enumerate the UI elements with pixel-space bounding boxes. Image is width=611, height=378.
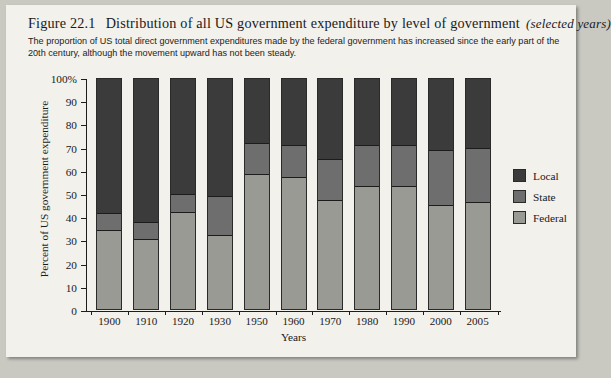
y-tick-mark (81, 241, 86, 242)
bar-segment-federal[interactable] (465, 203, 491, 310)
figure-number: Figure 22.1 (28, 15, 96, 31)
figure-title: Figure 22.1Distribution of all US govern… (28, 15, 562, 32)
bar-segment-state[interactable] (170, 194, 196, 213)
bar-1950[interactable] (244, 78, 270, 310)
bar-1970[interactable] (317, 78, 343, 310)
y-tick-label: 50 (66, 189, 77, 201)
bar-1920[interactable] (170, 78, 196, 310)
x-tick-mark (349, 311, 350, 315)
bar-segment-federal[interactable] (207, 236, 233, 310)
bar-1960[interactable] (281, 78, 307, 310)
bar-segment-local[interactable] (96, 78, 122, 213)
bar-segment-state[interactable] (281, 145, 307, 177)
bar-segment-state[interactable] (244, 143, 270, 175)
y-tick-label: 40 (66, 212, 77, 224)
y-tick-mark (81, 79, 86, 80)
y-tick-label: 60 (66, 166, 77, 178)
bar-segment-local[interactable] (170, 78, 196, 194)
x-tick-label-2005: 2005 (466, 315, 488, 327)
x-tick-mark (460, 311, 461, 315)
figure-card: Figure 22.1Distribution of all US govern… (6, 5, 576, 357)
bar-2000[interactable] (428, 78, 454, 310)
y-tick-mark (81, 218, 86, 219)
figure-title-qualifier: (selected years) (526, 16, 611, 31)
bar-segment-local[interactable] (465, 78, 491, 148)
y-tick-mark (81, 125, 86, 126)
bar-segment-federal[interactable] (170, 213, 196, 310)
bar-segment-state[interactable] (133, 222, 159, 241)
bar-segment-federal[interactable] (244, 175, 270, 310)
bar-segment-state[interactable] (317, 159, 343, 201)
chart-legend: LocalStateFederal (513, 165, 567, 228)
y-tick-label: 10 (66, 282, 77, 294)
bar-segment-state[interactable] (391, 145, 417, 187)
x-tick-label-1900: 1900 (98, 315, 120, 327)
legend-item-state[interactable]: State (513, 186, 567, 207)
plot-area: Percent of US government expenditure 010… (86, 79, 500, 311)
x-axis-title: Years (86, 331, 501, 343)
legend-swatch-federal (513, 211, 526, 224)
y-tick-label: 100% (51, 73, 77, 85)
legend-label: Federal (533, 212, 567, 224)
bar-segment-federal[interactable] (96, 231, 122, 310)
bar-segment-local[interactable] (281, 78, 307, 145)
y-tick-label: 70 (66, 143, 77, 155)
bar-2005[interactable] (465, 78, 491, 310)
bar-segment-federal[interactable] (133, 240, 159, 310)
y-tick-label: 30 (66, 235, 77, 247)
legend-label: Local (533, 170, 559, 182)
bar-1930[interactable] (207, 78, 233, 310)
y-tick-label: 80 (66, 119, 77, 131)
bar-segment-local[interactable] (244, 78, 270, 143)
bar-segment-state[interactable] (465, 148, 491, 204)
x-tick-mark (239, 311, 240, 315)
bar-1990[interactable] (391, 78, 417, 310)
bar-segment-local[interactable] (354, 78, 380, 145)
y-tick-mark (81, 311, 86, 312)
y-tick-mark (81, 172, 86, 173)
x-tick-label-1970: 1970 (319, 315, 341, 327)
y-tick-mark (81, 288, 86, 289)
bar-segment-state[interactable] (354, 145, 380, 187)
y-axis-line (86, 79, 87, 312)
y-tick-mark (81, 265, 86, 266)
y-tick-label: 90 (66, 96, 77, 108)
bar-segment-local[interactable] (133, 78, 159, 222)
x-axis-line (86, 311, 501, 312)
bar-segment-federal[interactable] (281, 178, 307, 310)
bar-1900[interactable] (96, 78, 122, 310)
bar-segment-state[interactable] (428, 150, 454, 206)
y-tick-label: 20 (66, 259, 77, 271)
bar-segment-federal[interactable] (391, 187, 417, 310)
bar-segment-local[interactable] (428, 78, 454, 150)
bar-segment-federal[interactable] (428, 206, 454, 310)
bar-segment-local[interactable] (317, 78, 343, 159)
bar-segment-state[interactable] (207, 196, 233, 235)
bar-1910[interactable] (133, 78, 159, 310)
x-tick-mark (386, 311, 387, 315)
x-tick-mark (128, 311, 129, 315)
figure-title-text: Distribution of all US government expend… (106, 15, 520, 31)
bar-segment-federal[interactable] (354, 187, 380, 310)
y-tick-label: 0 (71, 305, 77, 317)
bar-segment-local[interactable] (207, 78, 233, 196)
x-tick-mark (312, 311, 313, 315)
bar-segment-state[interactable] (96, 213, 122, 232)
x-tick-mark (165, 311, 166, 315)
bar-segment-local[interactable] (391, 78, 417, 145)
x-tick-label-1920: 1920 (172, 315, 194, 327)
legend-item-local[interactable]: Local (513, 165, 567, 186)
figure-subtitle: The proportion of US total direct govern… (28, 35, 568, 60)
y-axis-title: Percent of US government expenditure (38, 73, 50, 305)
x-tick-label-1960: 1960 (282, 315, 304, 327)
x-tick-mark (276, 311, 277, 315)
y-tick-mark (81, 102, 86, 103)
x-tick-mark (423, 311, 424, 315)
legend-item-federal[interactable]: Federal (513, 207, 567, 228)
x-tick-label-1980: 1980 (356, 315, 378, 327)
x-tick-label-1950: 1950 (246, 315, 268, 327)
legend-swatch-local (513, 169, 526, 182)
bar-segment-federal[interactable] (317, 201, 343, 310)
x-tick-label-2000: 2000 (430, 315, 452, 327)
bar-1980[interactable] (354, 78, 380, 310)
